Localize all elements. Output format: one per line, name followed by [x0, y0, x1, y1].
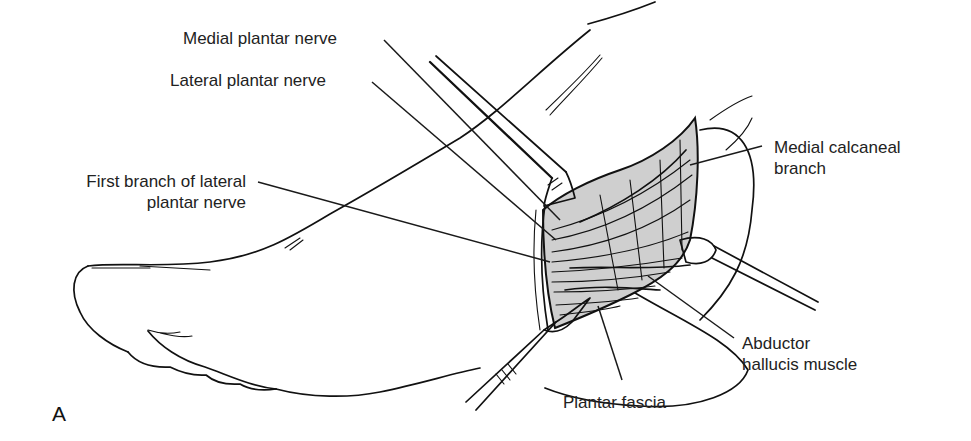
- label-first-branch-line1: First branch of lateral: [46, 171, 246, 192]
- right-retractor: [680, 238, 818, 310]
- label-plantar-fascia: Plantar fascia: [563, 392, 666, 413]
- label-abductor-hallucis-muscle: Abductor hallucis muscle: [742, 333, 857, 375]
- surgical-exposure: [534, 118, 698, 330]
- panel-letter: A: [52, 402, 66, 426]
- label-abductor-line1: Abductor: [742, 333, 857, 354]
- label-medial-calcaneal-branch: Medial calcaneal branch: [774, 137, 901, 179]
- label-medial-calcaneal-line2: branch: [774, 158, 901, 179]
- label-medial-plantar-nerve: Medial plantar nerve: [183, 28, 337, 49]
- label-abductor-line2: hallucis muscle: [742, 354, 857, 375]
- label-medial-calcaneal-line1: Medial calcaneal: [774, 137, 901, 158]
- upper-retractor: [430, 56, 575, 206]
- label-first-branch-lateral-plantar-nerve: First branch of lateral plantar nerve: [46, 171, 246, 213]
- label-first-branch-line2: plantar nerve: [46, 192, 246, 213]
- label-lateral-plantar-nerve: Lateral plantar nerve: [170, 70, 326, 91]
